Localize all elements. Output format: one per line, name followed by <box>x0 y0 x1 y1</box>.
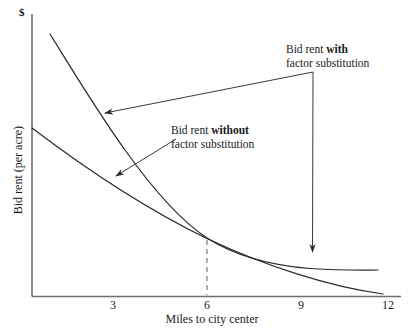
y-axis-unit-label: $ <box>19 6 25 19</box>
x-tick-6: 6 <box>195 298 219 313</box>
annotation-without-label: Bid rent without factor substitution <box>171 124 254 151</box>
x-tick-12: 12 <box>376 298 400 313</box>
annotation-with-line1: Bid rent with <box>286 43 369 57</box>
annotation-with-leader-right <box>313 72 314 252</box>
annotation-without-prefix: Bid rent <box>171 124 211 136</box>
annotation-with-emphasis: with <box>326 43 348 55</box>
bid-rent-chart: $ Bid rent (per acre) 3 6 9 12 Miles to … <box>0 0 412 332</box>
annotation-with-label: Bid rent with factor substitution <box>286 43 369 70</box>
annotation-with-prefix: Bid rent <box>286 43 326 55</box>
annotation-without-emphasis: without <box>211 124 249 136</box>
annotation-with-line2: factor substitution <box>286 57 369 71</box>
y-axis-title: Bid rent (per acre) <box>11 100 25 240</box>
annotation-without-line2: factor substitution <box>171 138 254 152</box>
annotation-without-leader <box>116 139 176 176</box>
annotation-with-leader-left <box>105 72 313 113</box>
x-axis-title: Miles to city center <box>142 312 282 326</box>
x-tick-3: 3 <box>101 298 125 313</box>
x-tick-9: 9 <box>289 298 313 313</box>
annotation-without-line1: Bid rent without <box>171 124 254 138</box>
